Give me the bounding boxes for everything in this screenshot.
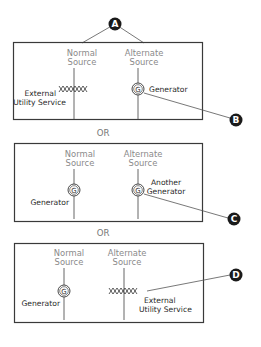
utility-caption-line2: Utility Service (139, 305, 192, 314)
callout-a: A (82, 18, 144, 44)
another-generator-caption-line2: Generator (147, 187, 186, 196)
callout-c-label: C (231, 214, 238, 224)
panel-2: Normal Source Alternate Source G Generat… (15, 144, 203, 222)
normal-source-label-line2: Source (55, 257, 84, 267)
svg-text:G: G (61, 288, 66, 296)
generator-caption: Generator (149, 85, 188, 94)
svg-text:G: G (135, 86, 140, 94)
utility-caption: External (24, 89, 56, 98)
callout-c: C (144, 194, 241, 226)
callout-a-label: A (112, 19, 119, 29)
generator-icon: G (132, 184, 144, 196)
normal-source-label-line2: Source (66, 158, 95, 168)
utility-service-icon (109, 288, 137, 294)
alternate-source-label-line2: Source (130, 57, 159, 67)
or-separator-1: OR (97, 128, 110, 138)
utility-caption: External (144, 296, 176, 305)
generator-caption: Generator (30, 198, 69, 207)
power-source-diagram: A Normal Source Alternate Source Externa… (0, 0, 261, 347)
panel-3: Normal Source Alternate Source G Generat… (15, 244, 204, 323)
or-separator-2: OR (97, 228, 110, 238)
generator-icon: G (132, 83, 144, 95)
alternate-source-label-line2: Source (129, 158, 158, 168)
svg-text:G: G (71, 187, 76, 195)
callout-d: D (147, 269, 243, 292)
panel-1: Normal Source Alternate Source External … (13, 43, 202, 120)
callout-b: B (144, 93, 243, 127)
generator-icon: G (58, 285, 70, 297)
callout-b-label: B (233, 115, 240, 125)
generator-icon: G (68, 184, 80, 196)
utility-caption-line2: Utility Service (13, 98, 66, 107)
alternate-source-label-line2: Source (113, 257, 142, 267)
another-generator-caption: Another (151, 178, 182, 187)
callout-d-label: D (232, 270, 239, 280)
svg-text:G: G (135, 187, 140, 195)
utility-service-icon (59, 86, 87, 92)
generator-caption: Generator (21, 299, 60, 308)
panel-1-box (14, 43, 203, 120)
normal-source-label-line2: Source (68, 57, 97, 67)
